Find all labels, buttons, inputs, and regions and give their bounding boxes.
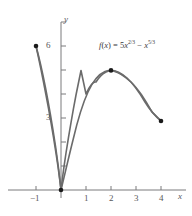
data-point-local-maximum <box>109 68 114 73</box>
function-curve-right-branch <box>61 70 161 190</box>
data-point-cusp-origin <box>59 188 64 193</box>
plot-area <box>0 0 192 216</box>
function-equation-label: f(x) = 5x2/3 − x5/3 <box>99 41 155 50</box>
x-tick-label-2: 2 <box>109 194 114 203</box>
x-tick-label-1: 1 <box>84 194 89 203</box>
x-tick-label-4: 4 <box>159 194 164 203</box>
x-axis-ticks <box>36 186 161 190</box>
data-point-right-endpoint <box>159 119 164 124</box>
function-equals: = <box>111 40 120 50</box>
y-axis-ticks <box>61 22 66 166</box>
function-curve <box>36 46 161 190</box>
x-axis-label: x <box>178 192 182 201</box>
x-tick-label--1: −1 <box>30 194 40 203</box>
y-tick-label-6: 6 <box>46 41 51 50</box>
data-point-left-endpoint <box>34 44 39 49</box>
function-term2-exponent: 5/3 <box>148 39 155 45</box>
x-tick-label-3: 3 <box>134 194 139 203</box>
function-term1-exponent: 2/3 <box>128 39 135 45</box>
y-tick-label-3: 3 <box>46 113 51 122</box>
function-minus: − <box>135 40 144 50</box>
y-axis-label: y <box>64 15 68 24</box>
function-graph-figure: −1 1 2 3 4 6 3 x y f(x) = 5x2/3 − x5/3 <box>0 0 192 216</box>
